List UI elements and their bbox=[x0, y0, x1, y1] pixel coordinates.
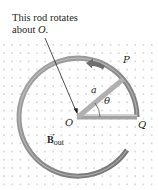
label-O: O bbox=[65, 117, 73, 128]
label-P: P bbox=[123, 54, 130, 65]
label-a: a bbox=[91, 84, 97, 95]
caption: This rod rotates about O. bbox=[12, 12, 78, 36]
vector-arrow-icon: → bbox=[48, 129, 56, 138]
label-Q: Q bbox=[138, 119, 146, 130]
label-theta: θ bbox=[104, 95, 110, 106]
rotating-rod-diagram: This rod rotates about O. P Q O a θ →Bou… bbox=[0, 0, 158, 190]
caption-line2: about O. bbox=[12, 24, 78, 36]
caption-line1: This rod rotates bbox=[12, 12, 78, 24]
caption-about: about bbox=[12, 24, 38, 35]
label-B-out: →Bout bbox=[47, 134, 64, 147]
label-B-subscript: out bbox=[54, 138, 64, 147]
caption-point-O: O bbox=[38, 24, 46, 35]
caption-period: . bbox=[46, 24, 49, 35]
